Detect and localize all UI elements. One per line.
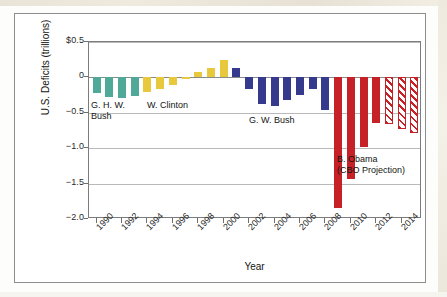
y-tick-label: −2.0 <box>22 212 84 222</box>
annotation-gw-bush: G. W. Bush <box>249 115 295 126</box>
bar-2008 <box>321 77 329 110</box>
bar-2012 <box>372 77 380 123</box>
bar-2009 <box>334 77 342 208</box>
y-axis-ticks: $0.50−0.5−1.0−1.5−2.0 <box>15 41 84 218</box>
bar-2013 <box>385 77 393 124</box>
bar-1998 <box>194 72 202 77</box>
bar-2002 <box>245 77 253 88</box>
figure-frame: U.S. Deficits (trillions) $0.50−0.5−1.0−… <box>14 13 426 283</box>
y-tick-mark <box>84 218 88 219</box>
bar-2007 <box>309 77 317 88</box>
bar-1992 <box>118 77 126 98</box>
y-tick-label: −0.5 <box>22 106 84 116</box>
y-tick-label: $0.5 <box>22 35 84 45</box>
bar-2000 <box>220 60 228 77</box>
bar-2006 <box>296 77 304 95</box>
bar-1993 <box>131 77 139 95</box>
bar-1990 <box>93 77 101 93</box>
bar-2003 <box>258 77 266 104</box>
x-axis-title: Year <box>88 261 421 272</box>
annotation-obama: B. Obama (CBO Projection) <box>337 154 405 176</box>
bar-1997 <box>182 77 190 78</box>
y-tick-label: −1.0 <box>22 141 84 151</box>
annotation-clinton: W. Clinton <box>147 100 188 111</box>
bars-layer <box>89 42 420 217</box>
bar-1995 <box>156 77 164 88</box>
bar-2001 <box>232 68 240 77</box>
bar-2011 <box>360 77 368 146</box>
bar-2014 <box>398 77 406 129</box>
scan-edge-bottom <box>0 292 447 297</box>
scan-edge-top <box>0 0 447 6</box>
plot-area: G. H. W. Bush W. Clinton G. W. Bush B. O… <box>88 41 421 218</box>
bar-1999 <box>207 68 215 77</box>
scan-edge-right <box>438 0 447 297</box>
y-tick-label: −1.5 <box>22 177 84 187</box>
bar-2004 <box>271 77 279 106</box>
annotation-ghw-bush: G. H. W. Bush <box>91 100 125 122</box>
bar-1991 <box>105 77 113 96</box>
bar-1996 <box>169 77 177 85</box>
y-tick-label: 0 <box>22 70 84 80</box>
figure-root: U.S. Deficits (trillions) $0.50−0.5−1.0−… <box>0 0 447 297</box>
bar-1994 <box>143 77 151 91</box>
bar-2005 <box>283 77 291 100</box>
bar-2015 <box>410 77 418 132</box>
